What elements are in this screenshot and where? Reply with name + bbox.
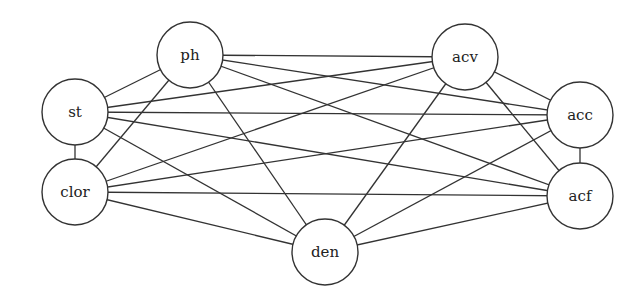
node-label: den [311, 243, 339, 261]
node-st: st [42, 79, 108, 145]
node-label: ph [180, 46, 200, 64]
node-den: den [292, 219, 358, 285]
node-label: clor [60, 183, 90, 201]
edge-clor-acf [75, 192, 580, 196]
edge-st-acc [75, 112, 580, 115]
node-label: acv [452, 48, 478, 66]
edge-clor-den [75, 192, 325, 252]
node-acf: acf [547, 163, 613, 229]
node-label: acf [569, 187, 593, 205]
node-label: st [68, 103, 82, 121]
node-label: acc [567, 106, 593, 124]
node-ph: ph [157, 22, 223, 88]
edge-clor-acc [75, 115, 580, 192]
node-acc: acc [547, 82, 613, 148]
edge-ph-acv [190, 55, 465, 57]
edge-ph-den [190, 55, 325, 252]
edge-acf-den [325, 196, 580, 252]
graph-diagram: stclorphacvaccacfden [0, 0, 643, 298]
node-clor: clor [42, 159, 108, 225]
edge-acc-den [325, 115, 580, 252]
node-acv: acv [432, 24, 498, 90]
